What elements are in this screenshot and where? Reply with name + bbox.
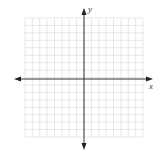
y-axis-label: y	[87, 4, 92, 14]
coordinate-plane: y x	[0, 0, 153, 153]
y-axis-down-arrow-icon	[82, 143, 87, 150]
x-axis-label: x	[148, 81, 153, 91]
x-axis-left-arrow-icon	[14, 77, 21, 82]
y-axis-up-arrow-icon	[82, 8, 87, 15]
